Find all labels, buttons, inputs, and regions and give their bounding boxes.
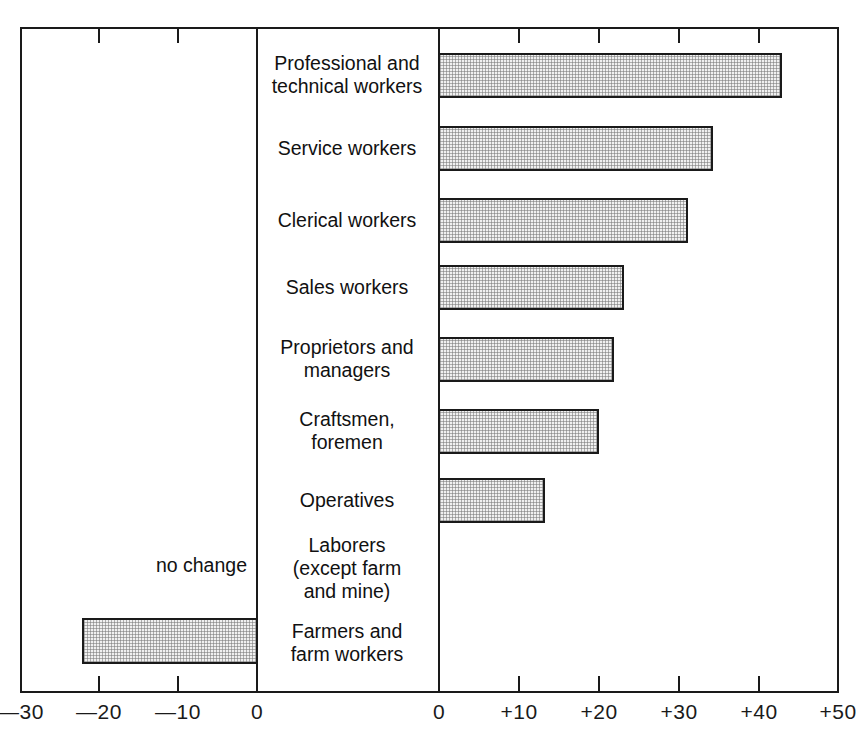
bar-positive bbox=[438, 265, 624, 310]
bar-positive bbox=[438, 198, 688, 243]
tick-mark-bottom-right bbox=[518, 676, 520, 692]
axis-tick-label: +20 bbox=[580, 700, 617, 724]
category-label: Craftsmen, foremen bbox=[262, 408, 432, 454]
category-label: Clerical workers bbox=[262, 209, 432, 232]
chart-container: —30—20—1000+10+20+30+40+50 Professional … bbox=[0, 0, 859, 747]
axis-tick-label: +50 bbox=[819, 700, 856, 724]
tick-mark-bottom-right bbox=[438, 676, 440, 692]
bar-positive bbox=[438, 337, 614, 382]
axis-tick-label: 0 bbox=[251, 700, 263, 724]
axis-tick-label: —20 bbox=[76, 700, 122, 724]
tick-mark-top-left bbox=[98, 27, 100, 43]
bar-positive bbox=[438, 409, 599, 454]
tick-mark-top-left bbox=[20, 27, 22, 43]
bar-positive bbox=[438, 53, 782, 98]
tick-mark-bottom-right bbox=[758, 676, 760, 692]
plot-frame-right bbox=[837, 27, 839, 693]
plot-frame-left bbox=[20, 27, 22, 693]
category-label: Operatives bbox=[262, 489, 432, 512]
tick-mark-bottom-right bbox=[837, 676, 839, 692]
tick-mark-top-right bbox=[837, 27, 839, 43]
category-label: Sales workers bbox=[262, 276, 432, 299]
tick-mark-top-right bbox=[758, 27, 760, 43]
bar-positive bbox=[438, 478, 545, 523]
tick-mark-bottom-right bbox=[598, 676, 600, 692]
axis-tick-label: 0 bbox=[433, 700, 445, 724]
category-label: Service workers bbox=[262, 137, 432, 160]
axis-tick-label: +30 bbox=[660, 700, 697, 724]
tick-mark-top-right bbox=[598, 27, 600, 43]
tick-mark-bottom-right bbox=[678, 676, 680, 692]
category-label: Professional and technical workers bbox=[262, 52, 432, 98]
zero-baseline-left-panel bbox=[256, 27, 258, 693]
plot-frame-top bbox=[20, 27, 839, 29]
tick-mark-top-right bbox=[518, 27, 520, 43]
bar-negative bbox=[82, 618, 258, 664]
tick-mark-bottom-left bbox=[177, 676, 179, 692]
tick-mark-top-right bbox=[678, 27, 680, 43]
tick-mark-top-left bbox=[177, 27, 179, 43]
bar-positive bbox=[438, 126, 713, 171]
axis-tick-label: +10 bbox=[500, 700, 537, 724]
category-label: Laborers (except farm and mine) bbox=[262, 534, 432, 603]
tick-mark-bottom-left bbox=[20, 676, 22, 692]
axis-tick-label: —10 bbox=[155, 700, 201, 724]
tick-mark-bottom-left bbox=[98, 676, 100, 692]
category-label: Farmers and farm workers bbox=[262, 620, 432, 666]
plot-frame-bottom bbox=[20, 691, 839, 693]
tick-mark-top-right bbox=[438, 27, 440, 43]
axis-tick-label: +40 bbox=[740, 700, 777, 724]
axis-tick-label: —30 bbox=[0, 700, 44, 724]
tick-mark-top-left bbox=[256, 27, 258, 43]
tick-mark-bottom-left bbox=[256, 676, 258, 692]
category-label: Proprietors and managers bbox=[262, 336, 432, 382]
no-change-annotation: no change bbox=[137, 554, 247, 577]
